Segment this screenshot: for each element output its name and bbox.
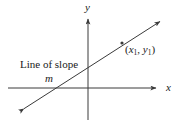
slope-caption: Line of slope m: [13, 59, 85, 84]
slope-caption-text: Line of slope: [13, 59, 85, 70]
paren-close: ): [151, 43, 155, 55]
point-coordinate-label: (x1, y1): [125, 44, 155, 56]
x-axis-label: x: [166, 82, 171, 93]
point-marker: [120, 41, 123, 44]
slope-symbol: m: [13, 73, 85, 84]
y-axis-label: y: [85, 2, 90, 13]
line-slope-diagram: y x (x1, y1) Line of slope m: [0, 0, 184, 125]
